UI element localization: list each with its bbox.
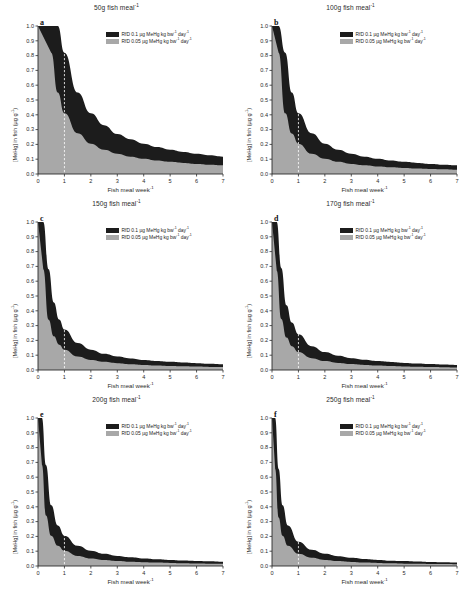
legend-label: RfD 0.1 µg MeHg kg bw-1 day-1 (122, 424, 190, 429)
y-tick-label: 0.6 (252, 474, 268, 480)
legend-d: RfD 0.1 µg MeHg kg bw-1 day-1RfD 0.05 µg… (340, 228, 426, 243)
series-area-rfd-0-05-b (272, 26, 457, 174)
legend-item-rfd-0-05: RfD 0.05 µg MeHg kg bw-1 day-1 (340, 39, 426, 44)
series-area-rfd-0-1-d (272, 222, 457, 370)
legend-label: RfD 0.05 µg MeHg kg bw-1 day-1 (356, 431, 426, 436)
y-tick-label: 0.1 (18, 352, 34, 358)
y-tick-label: 0.1 (18, 548, 34, 554)
y-tick-label: 0.8 (252, 444, 268, 450)
y-tick-label: 0.6 (18, 82, 34, 88)
x-tick-label: 2 (318, 570, 332, 576)
y-tick-label: 0.8 (18, 444, 34, 450)
x-tick-label: 2 (318, 374, 332, 380)
x-tick-label: 0 (265, 570, 279, 576)
x-tick-label: 3 (344, 178, 358, 184)
y-tick-label: 0.2 (18, 141, 34, 147)
panel-a: 50g fish meal-1a0.00.10.20.30.40.50.60.7… (0, 0, 233, 197)
y-tick-label: 0.5 (18, 489, 34, 495)
x-tick-label: 6 (190, 570, 204, 576)
y-tick-label: 0.2 (18, 337, 34, 343)
y-axis-label-d: [MeHg] in fish (µg g-1) (246, 304, 252, 358)
x-tick-label: 2 (318, 178, 332, 184)
x-tick-label: 1 (57, 374, 71, 380)
x-tick-label: 7 (450, 178, 464, 184)
y-tick-label: 1.0 (18, 415, 34, 421)
y-tick-label: 0.3 (18, 518, 34, 524)
legend-swatch (340, 424, 353, 429)
x-axis-label-b: Fish meal week-1 (272, 186, 457, 193)
legend-b: RfD 0.1 µg MeHg kg bw-1 day-1RfD 0.05 µg… (340, 32, 426, 47)
y-tick-label: 1.0 (252, 415, 268, 421)
y-tick-label: 1.0 (252, 23, 268, 29)
plot-area-f (234, 392, 467, 589)
y-tick-label: 0.4 (18, 308, 34, 314)
y-tick-label: 0.1 (18, 156, 34, 162)
panel-c: 150g fish meal-1c0.00.10.20.30.40.50.60.… (0, 196, 233, 393)
x-tick-label: 1 (291, 374, 305, 380)
y-tick-label: 0.9 (252, 430, 268, 436)
legend-swatch (106, 424, 119, 429)
legend-c: RfD 0.1 µg MeHg kg bw-1 day-1RfD 0.05 µg… (106, 228, 192, 243)
x-axis-label-d: Fish meal week-1 (272, 382, 457, 389)
y-tick-label: 0.8 (18, 248, 34, 254)
panel-d: 170g fish meal-1d0.00.10.20.30.40.50.60.… (234, 196, 467, 393)
x-tick-label: 0 (265, 178, 279, 184)
y-tick-label: 0.3 (252, 518, 268, 524)
panel-b: 100g fish meal-1b0.00.10.20.30.40.50.60.… (234, 0, 467, 197)
x-tick-label: 3 (110, 570, 124, 576)
y-tick-label: 0.2 (252, 533, 268, 539)
y-tick-label: 0.6 (252, 82, 268, 88)
legend-e: RfD 0.1 µg MeHg kg bw-1 day-1RfD 0.05 µg… (106, 424, 192, 439)
x-tick-label: 7 (216, 178, 230, 184)
legend-item-rfd-0-05: RfD 0.05 µg MeHg kg bw-1 day-1 (340, 431, 426, 436)
y-tick-label: 0.5 (252, 97, 268, 103)
x-tick-label: 4 (371, 570, 385, 576)
x-tick-label: 5 (163, 570, 177, 576)
y-tick-label: 0.6 (18, 474, 34, 480)
x-tick-label: 6 (424, 570, 438, 576)
y-tick-label: 0.4 (252, 112, 268, 118)
x-tick-label: 7 (216, 374, 230, 380)
x-tick-label: 4 (371, 374, 385, 380)
legend-label: RfD 0.05 µg MeHg kg bw-1 day-1 (356, 39, 426, 44)
plot-area-b (234, 0, 467, 197)
x-tick-label: 3 (344, 570, 358, 576)
y-axis-label-c: [MeHg] in fish (µg g-1) (12, 304, 18, 358)
x-tick-label: 0 (31, 178, 45, 184)
panel-f: 250g fish meal-1f0.00.10.20.30.40.50.60.… (234, 392, 467, 589)
legend-item-rfd-0-1: RfD 0.1 µg MeHg kg bw-1 day-1 (340, 424, 426, 429)
legend-item-rfd-0-05: RfD 0.05 µg MeHg kg bw-1 day-1 (106, 235, 192, 240)
y-tick-label: 0.9 (252, 38, 268, 44)
y-tick-label: 0.7 (252, 67, 268, 73)
x-tick-label: 6 (424, 178, 438, 184)
y-tick-label: 1.0 (18, 23, 34, 29)
y-tick-label: 0.5 (252, 489, 268, 495)
legend-label: RfD 0.1 µg MeHg kg bw-1 day-1 (122, 32, 190, 37)
y-tick-label: 0.2 (252, 337, 268, 343)
x-tick-label: 7 (450, 374, 464, 380)
x-tick-label: 4 (137, 570, 151, 576)
legend-item-rfd-0-1: RfD 0.1 µg MeHg kg bw-1 day-1 (340, 32, 426, 37)
series-area-rfd-0-1-f (272, 418, 457, 566)
y-tick-label: 0.5 (252, 293, 268, 299)
x-tick-label: 6 (424, 374, 438, 380)
y-tick-label: 0.9 (18, 38, 34, 44)
y-tick-label: 0.0 (18, 171, 34, 177)
plot-area-e (0, 392, 233, 589)
x-tick-label: 5 (397, 374, 411, 380)
y-tick-label: 0.0 (252, 367, 268, 373)
plot-area-a (0, 0, 233, 197)
y-tick-label: 0.1 (252, 352, 268, 358)
y-tick-label: 0.3 (18, 126, 34, 132)
x-tick-label: 5 (163, 374, 177, 380)
y-axis-label-b: [MeHg] in fish (µg g-1) (246, 108, 252, 162)
panel-e: 200g fish meal-1e0.00.10.20.30.40.50.60.… (0, 392, 233, 589)
x-axis-label-e: Fish meal week-1 (38, 578, 223, 585)
y-tick-label: 0.7 (252, 459, 268, 465)
x-tick-label: 2 (84, 374, 98, 380)
y-tick-label: 0.5 (18, 293, 34, 299)
x-tick-label: 3 (110, 178, 124, 184)
x-tick-label: 3 (344, 374, 358, 380)
x-tick-label: 4 (137, 374, 151, 380)
y-tick-label: 0.7 (18, 459, 34, 465)
